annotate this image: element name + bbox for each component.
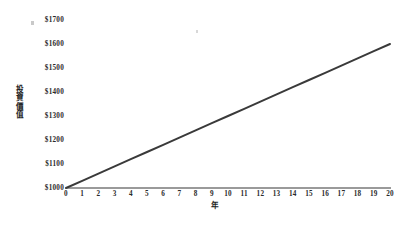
y-axis-title: 投資價值	[14, 86, 25, 120]
y-axis-tick-label: $1500	[18, 64, 64, 72]
y-axis-title-char: 值	[14, 111, 25, 119]
scan-speck-artifact	[196, 30, 198, 33]
x-axis-line	[66, 187, 391, 189]
x-axis-title: 年	[0, 201, 420, 210]
line-chart: $1700$1600$1500$1400$1300$1200$1100$1000…	[0, 0, 420, 226]
scan-speck-artifact	[31, 21, 34, 25]
y-axis-tick-label: $1100	[18, 160, 64, 168]
y-axis-tick-label: $1200	[18, 136, 64, 144]
plot-area	[66, 20, 391, 188]
x-axis-tick-label: 20	[381, 190, 399, 199]
y-axis-tick-label: $1600	[18, 40, 64, 48]
y-axis-tick-label: $1700	[18, 16, 64, 24]
